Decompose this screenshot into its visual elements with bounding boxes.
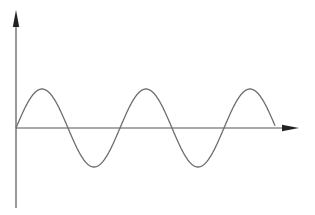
sine-wave-diagram: [0, 0, 315, 215]
y-axis-arrowhead-icon: [13, 10, 19, 27]
diagram-canvas: [0, 0, 315, 215]
x-axis-arrowhead-icon: [282, 125, 299, 131]
